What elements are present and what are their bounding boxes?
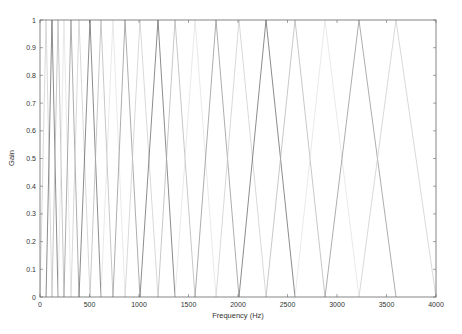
y-tick-label: 0.2	[26, 238, 36, 245]
y-axis-label: Gain	[7, 150, 16, 166]
x-tick-label: 1000	[131, 301, 147, 308]
y-tick-label: 0.6	[26, 127, 36, 134]
x-tick-label: 4000	[428, 301, 444, 308]
y-tick-label: 0.5	[26, 155, 36, 162]
x-tick-label: 2000	[230, 301, 246, 308]
y-tick-label: 0	[32, 294, 36, 301]
x-tick-label: 3500	[379, 301, 395, 308]
x-tick-label: 0	[38, 301, 42, 308]
x-tick-label: 3000	[329, 301, 345, 308]
y-tick-label: 0.3	[26, 210, 36, 217]
y-tick-label: 0.8	[26, 72, 36, 79]
y-tick-label: 0.9	[26, 44, 36, 51]
y-tick-label: 0.1	[26, 266, 36, 273]
x-tick-label: 500	[84, 301, 96, 308]
x-tick-label: 1500	[181, 301, 197, 308]
x-axis-label: Frequency (Hz)	[212, 311, 264, 320]
y-tick-label: 0.4	[26, 183, 36, 190]
y-tick-label: 0.7	[26, 100, 36, 107]
x-tick-label: 2500	[280, 301, 296, 308]
filterbank-chart: 05001000150020002500300035004000 00.10.2…	[0, 0, 462, 334]
y-tick-label: 1	[32, 17, 36, 24]
